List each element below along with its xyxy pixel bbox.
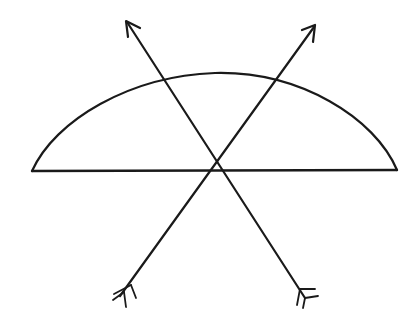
diagram-canvas bbox=[0, 0, 420, 329]
fletching-icon bbox=[113, 285, 136, 307]
left-ray bbox=[126, 21, 318, 308]
semicircle-baseline bbox=[32, 170, 397, 171]
fletching-icon bbox=[297, 289, 318, 308]
ray-diagram bbox=[0, 0, 420, 329]
